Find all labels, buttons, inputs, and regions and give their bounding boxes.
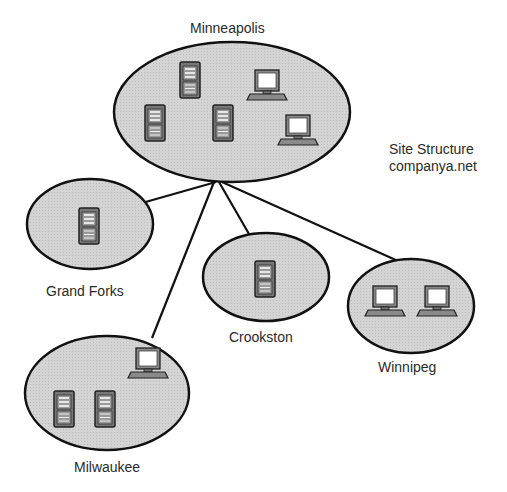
site-winnipeg [348,259,474,353]
site-label-milwaukee: Milwaukee [74,459,140,475]
server-icon [145,105,165,141]
link-minneapolis-milwaukee [152,182,214,338]
site-milwaukee [25,336,189,450]
link-minneapolis-grand-forks [142,182,216,203]
site-label-minneapolis: Minneapolis [190,20,265,36]
site-crookston [203,233,329,321]
server-icon [79,208,99,244]
server-icon [255,261,275,297]
server-icon [180,62,200,98]
diagram-title-block: Site Structure companya.net [389,141,477,175]
server-icon [213,105,233,141]
site-structure-diagram [0,0,507,492]
link-minneapolis-crookston [219,182,249,234]
site-label-winnipeg: Winnipeg [378,359,436,375]
diagram-title: Site Structure [389,141,477,158]
site-minneapolis [114,42,350,182]
site-grand-forks [27,179,153,269]
domain-name: companya.net [389,158,477,175]
server-icon [95,391,115,427]
site-label-grand-forks: Grand Forks [46,283,124,299]
server-icon [54,391,74,427]
site-label-crookston: Crookston [229,329,293,345]
